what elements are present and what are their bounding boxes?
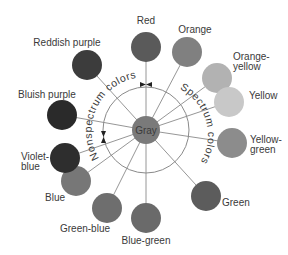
green-blue-label: Green-blue (60, 223, 110, 234)
blue-green-label: Blue-green (122, 235, 171, 246)
color-node-violet-blue: Violet-blue (21, 143, 80, 173)
nonspectrum-colors-label: Nonspectrum colors (82, 68, 138, 163)
reddish-purple-swatch (72, 50, 102, 80)
green-swatch (191, 181, 221, 211)
divider-marker-left (101, 131, 106, 143)
color-circle-diagram: Nonspectrum colors Spectrum colors RedOr… (0, 0, 288, 255)
yellow-label: Yellow (249, 90, 278, 101)
orange-swatch (172, 37, 202, 67)
green-blue-swatch (92, 193, 122, 223)
yellow-green-swatch (217, 128, 247, 158)
yellow-green-label: Yellow-green (250, 134, 282, 155)
color-node-yellow: Yellow (214, 87, 278, 117)
color-node-blue-green: Blue-green (122, 203, 171, 246)
bluish-purple-label: Bluish purple (18, 89, 76, 100)
color-node-green: Green (191, 181, 250, 211)
red-swatch (131, 32, 161, 62)
violet-blue-swatch (50, 143, 80, 173)
yellow-swatch (214, 87, 244, 117)
gray-center-label: Gray (135, 125, 157, 136)
color-node-orange: Orange (172, 24, 212, 67)
spectrum-colors-label: Spectrum colors (179, 80, 218, 167)
color-node-red: Red (131, 15, 161, 62)
red-label: Red (137, 15, 155, 26)
orange-yellow-label: Orange-yellow (233, 51, 270, 72)
color-node-orange-yellow: Orange-yellow (202, 51, 270, 93)
color-node-bluish-purple: Bluish purple (18, 89, 77, 130)
color-node-reddish-purple: Reddish purple (33, 37, 102, 80)
violet-blue-label: Violet-blue (21, 151, 49, 172)
blue-green-swatch (131, 203, 161, 233)
bluish-purple-swatch (47, 100, 77, 130)
blue-label: Blue (45, 192, 65, 203)
green-label: Green (222, 197, 250, 208)
color-node-green-blue: Green-blue (60, 193, 122, 234)
color-node-yellow-green: Yellow-green (217, 128, 282, 158)
reddish-purple-label: Reddish purple (33, 37, 101, 48)
orange-label: Orange (178, 24, 212, 35)
